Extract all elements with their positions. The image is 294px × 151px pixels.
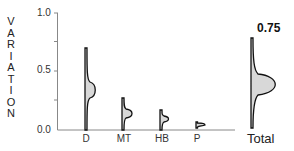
x-label-D: D [82,133,89,144]
x-label-P: P [194,133,201,144]
plot-area [0,0,294,151]
x-label-MT: MT [117,133,131,144]
total-label: Total [247,131,274,146]
x-label-HB: HB [155,133,169,144]
total-value: 0.75 [257,21,280,35]
chart: V A R I A T I O N 1.0 0.5 0.0 D MT HB P … [0,0,294,151]
